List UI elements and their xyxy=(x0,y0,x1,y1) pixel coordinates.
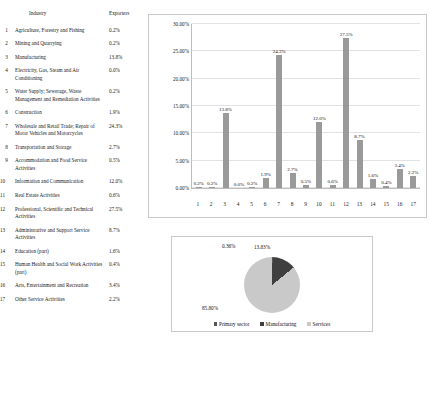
bar[interactable] xyxy=(370,179,376,188)
row-industry: Information and Communication xyxy=(15,175,109,189)
row-number-text: 10 xyxy=(0,178,5,186)
bar[interactable] xyxy=(343,38,349,188)
bar-column[interactable]: 0.2% xyxy=(205,24,218,188)
bar-value-label: 0.5% xyxy=(301,179,311,184)
row-industry: Construction xyxy=(15,106,109,120)
table-body: Industry Exporters 1 Agriculture, Forest… xyxy=(0,8,143,306)
bar[interactable] xyxy=(316,122,322,188)
bar-value-label: 24.3% xyxy=(273,49,286,54)
industry-table: Industry Exporters 1 Agriculture, Forest… xyxy=(0,8,143,306)
bar-column[interactable]: 0.4% xyxy=(380,24,393,188)
pie-legend: Primary sector Manufacturing Services xyxy=(172,321,372,327)
row-number: 8 xyxy=(0,141,15,155)
table-row: 13 Administrative and Support Service Ac… xyxy=(0,224,143,245)
bar-column[interactable]: 1.9% xyxy=(259,24,272,188)
x-axis-tick-label: 9 xyxy=(299,201,312,207)
table-row: 16 Arts, Entertainment and Recreation 3.… xyxy=(0,279,143,293)
table-header-row: Industry Exporters xyxy=(0,8,143,24)
row-number: 7 xyxy=(0,120,15,141)
row-industry: Transportation and Storage xyxy=(15,141,109,155)
bar-column[interactable]: 0.0% xyxy=(232,24,245,188)
pie-chart: 0.36% 13.83% 85.80% Primary sector Manuf… xyxy=(171,236,373,332)
x-axis-tick-label: 13 xyxy=(353,201,366,207)
bar-column[interactable]: 8.7% xyxy=(353,24,366,188)
bar-value-label: 2.7% xyxy=(287,167,297,172)
pie-graphic xyxy=(244,257,300,313)
row-value: 1.6% xyxy=(109,245,143,259)
bar-value-label: 0.2% xyxy=(193,181,203,186)
table-row: 15 Human Health and Social Work Activiti… xyxy=(0,258,143,279)
y-axis-tick-label: 10.00% xyxy=(173,130,189,136)
bar-value-label: 1.6% xyxy=(368,173,378,178)
row-industry: Administrative and Support Service Activ… xyxy=(15,224,109,245)
bar[interactable] xyxy=(223,113,229,188)
row-number: 3 xyxy=(0,51,15,65)
row-number-text: 12 xyxy=(0,206,5,214)
legend-label: Services xyxy=(313,321,331,327)
row-value: 12.0% xyxy=(109,175,143,189)
bar-column[interactable]: 0.2% xyxy=(246,24,259,188)
bar[interactable] xyxy=(330,185,336,188)
row-number: 13 xyxy=(0,224,15,245)
bar[interactable] xyxy=(357,140,363,188)
bar[interactable] xyxy=(209,187,215,188)
row-industry: Education (part) xyxy=(15,245,109,259)
bar[interactable] xyxy=(303,185,309,188)
bar[interactable] xyxy=(196,187,202,188)
bar-chart: 30.00%25.00%20.00%15.00%10.00%5.00%0.00%… xyxy=(148,14,427,218)
x-axis-tick-label: 15 xyxy=(380,201,393,207)
bar[interactable] xyxy=(397,169,403,188)
table-row: 12 Professional, Scientific and Technica… xyxy=(0,203,143,224)
bar-value-label: 8.7% xyxy=(354,134,364,139)
bar-value-label: 3.4% xyxy=(395,163,405,168)
table-row: 11 Real Estate Activities 0.6% xyxy=(0,189,143,203)
x-axis-tick-label: 17 xyxy=(407,201,420,207)
table-row: 5 Water Supply; Sewerage, Waste Manageme… xyxy=(0,85,143,106)
legend-swatch-icon xyxy=(260,322,263,325)
legend-item-manufacturing: Manufacturing xyxy=(260,321,296,327)
bar-column[interactable]: 2.2% xyxy=(407,24,420,188)
bar-column[interactable]: 12.0% xyxy=(313,24,326,188)
bar[interactable] xyxy=(290,173,296,188)
bar-chart-x-axis: 1234567891011121314151617 xyxy=(191,201,420,207)
bar-chart-inner: 30.00%25.00%20.00%15.00%10.00%5.00%0.00%… xyxy=(149,15,426,217)
bar-column[interactable]: 27.5% xyxy=(339,24,352,188)
bar-column[interactable]: 0.2% xyxy=(192,24,205,188)
bar[interactable] xyxy=(276,55,282,188)
row-industry: Agriculture, Forestry and Fishing xyxy=(15,24,109,38)
bar-value-label: 0.2% xyxy=(207,181,217,186)
bar[interactable] xyxy=(383,186,389,188)
x-axis-tick-label: 1 xyxy=(191,201,204,207)
bar-column[interactable]: 24.3% xyxy=(272,24,285,188)
row-number-text: 16 xyxy=(0,282,5,290)
bar-column[interactable]: 0.6% xyxy=(326,24,339,188)
x-axis-tick-label: 6 xyxy=(258,201,271,207)
bar[interactable] xyxy=(263,178,269,188)
bar[interactable] xyxy=(410,176,416,188)
bar-column[interactable]: 0.5% xyxy=(299,24,312,188)
table-row: 2 Mining and Quarrying 0.2% xyxy=(0,37,143,51)
row-industry: Mining and Quarrying xyxy=(15,37,109,51)
row-industry: Water Supply; Sewerage, Waste Management… xyxy=(15,85,109,106)
bar-column[interactable]: 2.7% xyxy=(286,24,299,188)
row-number: 4 xyxy=(0,64,15,85)
bar-value-label: 0.4% xyxy=(381,180,391,185)
row-industry: Arts, Entertainment and Recreation xyxy=(15,279,109,293)
table-row: 17 Other Service Activities 2.2% xyxy=(0,293,143,307)
bar-value-label: 27.5% xyxy=(340,32,353,37)
row-value: 0.6% xyxy=(109,189,143,203)
row-industry: Accommodation and Food Service Activitie… xyxy=(15,154,109,175)
bar-column[interactable]: 3.4% xyxy=(393,24,406,188)
row-value: 0.2% xyxy=(109,85,143,106)
x-axis-tick-label: 3 xyxy=(218,201,231,207)
row-number-text: 17 xyxy=(0,296,5,304)
header-exporters: Exporters xyxy=(109,8,143,24)
row-value: 8.7% xyxy=(109,224,143,245)
x-axis-tick-label: 2 xyxy=(204,201,217,207)
bar-column[interactable]: 13.8% xyxy=(219,24,232,188)
table-row: 4 Electricity, Gas, Steam and Air Condit… xyxy=(0,64,143,85)
row-number: 1 xyxy=(0,24,15,38)
bar-column[interactable]: 1.6% xyxy=(366,24,379,188)
bar[interactable] xyxy=(249,187,255,188)
header-number xyxy=(0,8,15,24)
